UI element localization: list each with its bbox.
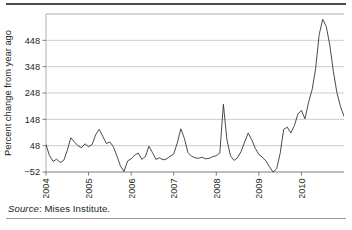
x-tick-label: 2009: [254, 179, 264, 199]
plot-area-wrapper: −524814824834844820042005200620072008200…: [0, 8, 352, 198]
x-tick-label: 2006: [127, 179, 137, 199]
source-value: Mises Institute.: [45, 203, 111, 214]
y-tick-label: 48: [30, 141, 40, 151]
y-tick-label: 448: [25, 36, 40, 46]
figure-container: −524814824834844820042005200620072008200…: [0, 0, 352, 230]
source-note: Source: Mises Institute.: [8, 203, 110, 214]
x-tick-label: 2007: [169, 179, 179, 199]
bottom-divider-rule: [6, 218, 346, 219]
x-tick-label: 2004: [41, 179, 51, 199]
x-tick-label: 2008: [212, 179, 222, 199]
y-tick-label: −52: [24, 167, 40, 177]
y-tick-label: 248: [25, 88, 40, 98]
line-chart: −524814824834844820042005200620072008200…: [0, 8, 352, 198]
x-tick-label: 2005: [84, 179, 94, 199]
y-tick-label: 348: [25, 62, 40, 72]
series-line: [46, 19, 344, 172]
y-axis-title: Percent change from year ago: [2, 30, 13, 156]
source-label: Source: [8, 203, 39, 214]
y-tick-label: 148: [25, 115, 40, 125]
top-divider-rule: [6, 3, 346, 5]
x-tick-label: 2010: [297, 179, 307, 199]
